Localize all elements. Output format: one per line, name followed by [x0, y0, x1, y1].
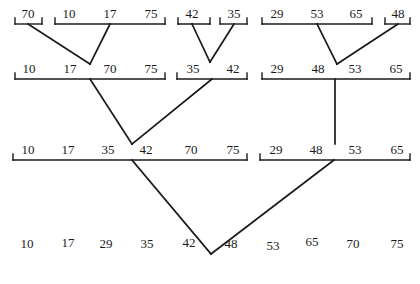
array-value: 17 [104, 7, 117, 20]
array-value: 48 [312, 62, 325, 75]
array-value: 35 [102, 143, 115, 156]
array-value: 75 [145, 62, 158, 75]
array-value: 53 [349, 143, 362, 156]
merge-edge [192, 24, 210, 62]
array-value: 70 [185, 143, 198, 156]
merge-edge [28, 24, 90, 64]
array-value: 70 [104, 62, 117, 75]
array-value: 29 [271, 62, 284, 75]
sorted-value: 70 [347, 237, 360, 250]
array-value: 65 [390, 62, 403, 75]
array-value: 42 [227, 62, 240, 75]
array-value: 29 [271, 7, 284, 20]
merge-edge [317, 24, 337, 64]
array-value: 75 [227, 143, 240, 156]
sorted-value: 48 [225, 237, 238, 250]
array-value: 17 [64, 62, 77, 75]
array-value: 42 [140, 143, 153, 156]
sorted-value: 29 [100, 237, 113, 250]
array-value: 65 [391, 143, 404, 156]
array-value: 70 [22, 7, 35, 20]
array-value: 35 [228, 7, 241, 20]
array-value: 48 [310, 143, 323, 156]
array-value: 35 [187, 62, 200, 75]
sorted-value: 10 [21, 237, 34, 250]
sorted-value: 17 [62, 236, 75, 249]
array-value: 65 [350, 7, 363, 20]
merge-edge [132, 79, 212, 144]
merge-edge [90, 79, 132, 144]
merge-edge [90, 24, 110, 64]
array-value: 10 [63, 7, 76, 20]
sorted-value: 65 [306, 235, 319, 248]
sorted-value: 75 [391, 237, 404, 250]
array-value: 53 [349, 62, 362, 75]
sorted-value: 53 [267, 239, 280, 252]
array-value: 48 [392, 7, 405, 20]
array-value: 75 [145, 7, 158, 20]
array-value: 17 [62, 143, 75, 156]
merge-edge [337, 24, 398, 64]
merge-edge [210, 24, 234, 62]
array-value: 29 [270, 143, 283, 156]
sorted-value: 42 [183, 236, 196, 249]
array-value: 53 [311, 7, 324, 20]
sorted-value: 35 [141, 237, 154, 250]
array-value: 42 [186, 7, 199, 20]
array-value: 10 [23, 62, 36, 75]
array-value: 10 [22, 143, 35, 156]
